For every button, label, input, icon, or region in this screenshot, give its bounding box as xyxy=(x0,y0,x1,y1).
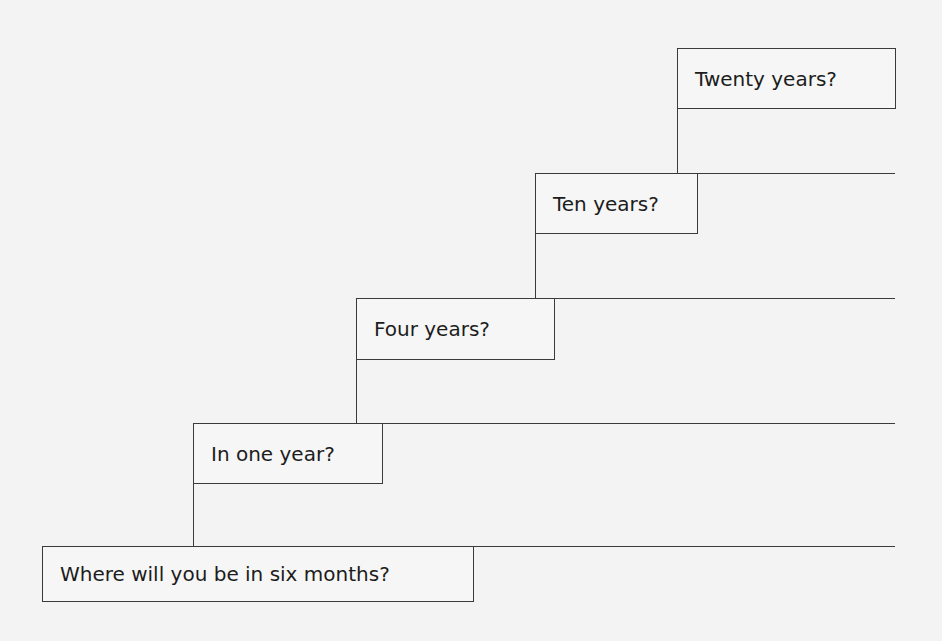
step-twenty-years: Twenty years? xyxy=(677,48,896,109)
step-label: Twenty years? xyxy=(695,67,837,91)
step-label: Where will you be in six months? xyxy=(60,562,390,586)
riser-3 xyxy=(535,233,536,298)
riser-1 xyxy=(193,483,194,546)
step-label: Ten years? xyxy=(553,192,659,216)
step-line-2 xyxy=(382,423,895,424)
riser-2 xyxy=(356,359,357,423)
step-ten-years: Ten years? xyxy=(535,173,698,234)
step-one-year: In one year? xyxy=(193,423,383,484)
step-four-years: Four years? xyxy=(356,298,555,360)
riser-4 xyxy=(677,108,678,173)
step-line-3 xyxy=(554,298,895,299)
step-line-1 xyxy=(473,546,895,547)
step-label: In one year? xyxy=(211,442,335,466)
step-line-4 xyxy=(697,173,895,174)
step-six-months: Where will you be in six months? xyxy=(42,546,474,602)
step-label: Four years? xyxy=(374,317,490,341)
